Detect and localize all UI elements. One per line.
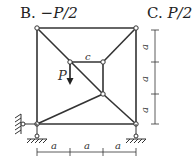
truss-diagram: P c a a a — [0, 0, 194, 159]
dim-v-2: a — [139, 76, 150, 82]
bar-c-label: c — [85, 51, 91, 62]
load-arrow-icon — [67, 64, 74, 85]
bottom-right-support-icon — [126, 124, 146, 143]
dim-v-1: a — [139, 44, 150, 50]
left-wall-support-icon — [15, 114, 37, 134]
truss-members — [37, 28, 136, 124]
load-label: P — [57, 68, 67, 83]
vertical-dimension-lines — [151, 30, 159, 124]
dim-h-1: a — [51, 140, 57, 151]
dim-h-2: a — [84, 140, 90, 151]
dim-v-3: a — [139, 107, 150, 113]
dim-h-3: a — [115, 140, 121, 151]
bottom-left-support-icon — [27, 124, 47, 143]
